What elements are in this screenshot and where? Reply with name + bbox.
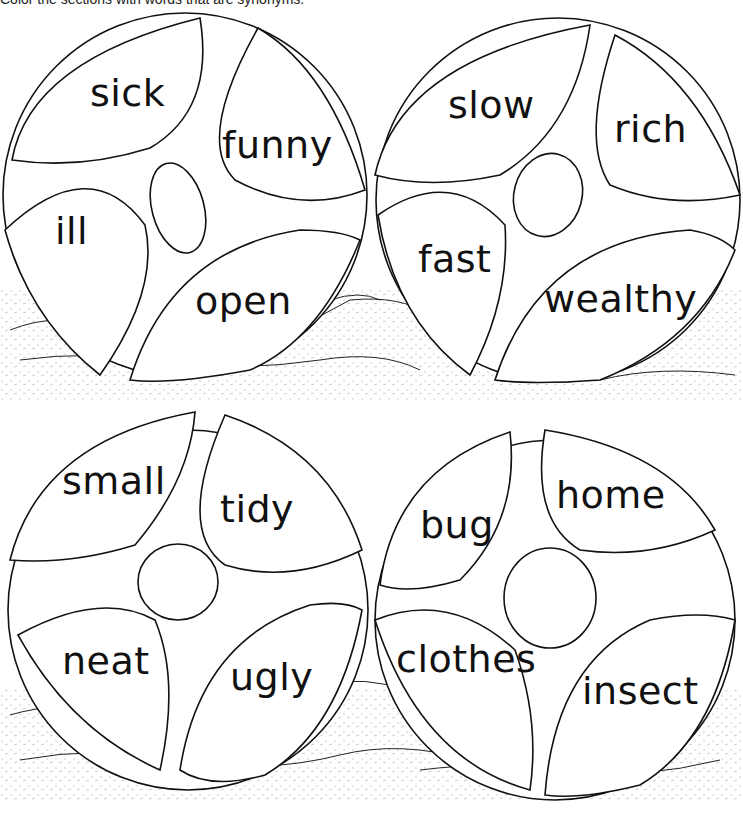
word-insect[interactable]: insect — [582, 672, 699, 710]
ball-2 — [375, 18, 740, 383]
word-small[interactable]: small — [62, 462, 166, 500]
word-ugly[interactable]: ugly — [230, 658, 313, 696]
word-neat[interactable]: neat — [62, 642, 150, 680]
word-funny[interactable]: funny — [222, 126, 333, 164]
word-rich[interactable]: rich — [614, 110, 687, 148]
word-tidy[interactable]: tidy — [220, 490, 294, 528]
word-clothes[interactable]: clothes — [396, 640, 536, 678]
word-ill[interactable]: ill — [55, 212, 88, 250]
word-open[interactable]: open — [195, 282, 292, 320]
word-slow[interactable]: slow — [448, 86, 535, 124]
word-bug[interactable]: bug — [420, 506, 494, 544]
word-sick[interactable]: sick — [90, 74, 165, 112]
word-wealthy[interactable]: wealthy — [544, 280, 697, 318]
ball-4 — [375, 430, 735, 800]
word-fast[interactable]: fast — [418, 240, 491, 278]
ball-1 — [3, 13, 367, 381]
word-home[interactable]: home — [556, 476, 666, 514]
